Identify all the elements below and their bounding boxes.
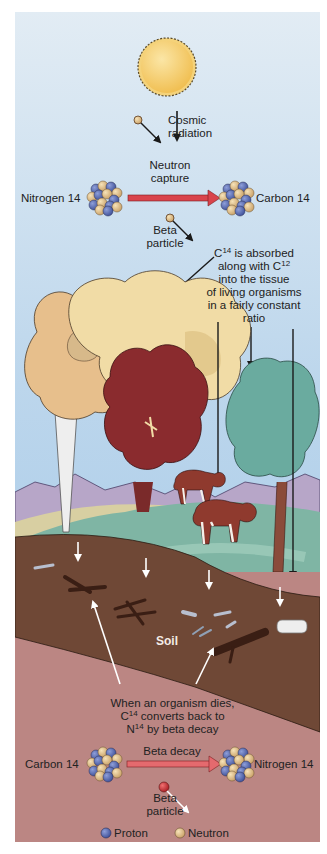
carbon-14-top-label: Carbon 14 — [256, 192, 310, 205]
beta-particle-top-label: Beta particle — [145, 224, 185, 250]
death-note: When an organism dies, C14 converts back… — [100, 697, 245, 736]
beta-particle-top-icon — [166, 214, 174, 222]
neutron-capture-label: Neutron capture — [135, 159, 205, 185]
soil-label: Soil — [156, 635, 178, 648]
nitrogen-14-bottom-label: Nitrogen 14 — [254, 758, 313, 771]
absorption-note: C14 is absorbed along with C12 into the … — [198, 247, 310, 325]
incoming-neutron-icon — [134, 116, 142, 124]
beta-decay-label: Beta decay — [133, 745, 211, 758]
nitrogen-14-top-label: Nitrogen 14 — [21, 192, 80, 205]
carbon-14-cycle-diagram: Cosmic radiation Neutron capture Nitroge… — [15, 12, 320, 842]
legend-neutron-label: Neutron — [188, 827, 229, 840]
legend-proton-label: Proton — [114, 827, 148, 840]
beta-particle-bottom-label: Beta particle — [145, 792, 185, 818]
carbon-14-bottom-label: Carbon 14 — [25, 758, 79, 771]
cosmic-radiation-label: Cosmic radiation — [168, 114, 212, 140]
beta-particle-bottom-icon — [159, 782, 169, 792]
legend-proton-icon — [101, 828, 111, 838]
sun-icon — [138, 38, 196, 96]
legend-neutron-icon — [175, 828, 185, 838]
